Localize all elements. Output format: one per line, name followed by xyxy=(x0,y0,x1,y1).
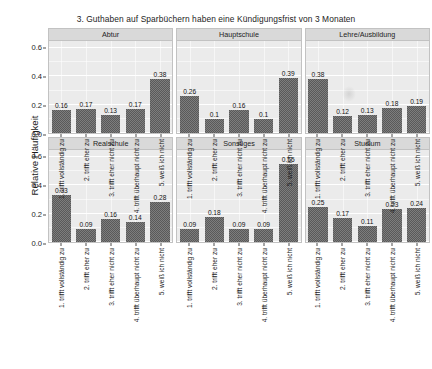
bar-slot: 0.38 xyxy=(150,41,169,133)
bar[interactable] xyxy=(76,229,95,242)
bar-slot: 0.16 xyxy=(229,41,248,133)
x-tick-slot: 2. trifft eher zu xyxy=(333,243,352,323)
bar[interactable] xyxy=(180,229,199,242)
bar[interactable] xyxy=(229,229,248,242)
bar[interactable] xyxy=(333,116,352,133)
x-tick-label: 2. trifft eher zu xyxy=(82,248,89,290)
bar[interactable] xyxy=(76,109,95,133)
x-tick-label: 4. trifft überhaupt nicht zu xyxy=(389,248,396,322)
x-tick-label: 1. trifft vollständig zu xyxy=(185,139,192,199)
bar[interactable] xyxy=(279,78,298,133)
x-tick-label: 5. weiß ich nicht xyxy=(414,139,421,186)
x-tick-mark xyxy=(342,134,343,137)
x-tick-slot: 1. trifft vollständig zu xyxy=(179,134,198,214)
bar[interactable] xyxy=(126,109,145,133)
bar-value-label: 0.09 xyxy=(80,221,93,228)
bar-slot: 0.1 xyxy=(254,41,273,133)
bar[interactable] xyxy=(358,115,377,133)
bar-series: 0.260.10.160.10.39 xyxy=(177,41,300,133)
y-tick-label: 0.2 xyxy=(31,210,42,219)
x-tick-slot: 4. trifft überhaupt nicht zu xyxy=(254,243,273,323)
x-tick-slot: 4. trifft überhaupt nicht zu xyxy=(126,243,145,323)
bar[interactable] xyxy=(308,79,327,133)
bar[interactable] xyxy=(180,96,199,133)
bar[interactable] xyxy=(333,218,352,242)
bar-series: 0.380.120.130.180.19 xyxy=(306,41,429,133)
x-axis-label-group: 1. trifft vollständig zu2. trifft eher z… xyxy=(305,134,430,214)
x-tick-slot: 3. trifft eher nicht zu xyxy=(358,243,377,323)
bar-slot: 0.19 xyxy=(407,41,426,133)
bar[interactable] xyxy=(150,79,169,133)
x-tick-label: 5. weiß ich nicht xyxy=(286,139,293,186)
facet-panel: Lehre/Ausbildung0.380.120.130.180.19 xyxy=(305,28,430,134)
bar[interactable] xyxy=(52,110,71,133)
bar[interactable] xyxy=(126,222,145,242)
bar-slot: 0.1 xyxy=(205,41,224,133)
panel-strip-label: Abtur xyxy=(48,28,173,40)
panel-plot-area: 0.380.120.130.180.19 xyxy=(305,40,430,134)
x-axis-label-group: 1. trifft vollständig zu2. trifft eher z… xyxy=(176,134,301,214)
bar[interactable] xyxy=(205,217,224,242)
x-tick-slot: 3. trifft eher nicht zu xyxy=(229,134,248,214)
bar-slot: 0.17 xyxy=(76,41,95,133)
bar-value-label: 0.13 xyxy=(104,107,117,114)
bar[interactable] xyxy=(229,110,248,133)
x-tick-mark xyxy=(60,134,61,137)
x-tick-slot: 4. trifft überhaupt nicht zu xyxy=(383,134,402,214)
x-tick-mark xyxy=(188,243,189,246)
x-tick-label: 1. trifft vollständig zu xyxy=(314,139,321,199)
panel-strip-label: Hauptschule xyxy=(176,28,301,40)
x-tick-slot: 5. weiß ich nicht xyxy=(151,134,170,214)
bar[interactable] xyxy=(254,229,273,242)
bar-value-label: 0.39 xyxy=(282,70,295,77)
x-tick-label: 3. trifft eher nicht zu xyxy=(235,139,242,197)
bar-series: 0.160.170.130.170.38 xyxy=(49,41,172,133)
x-tick-label: 3. trifft eher nicht zu xyxy=(107,248,114,306)
x-tick-mark xyxy=(264,134,265,137)
bar[interactable] xyxy=(382,108,401,133)
bar-slot: 0.17 xyxy=(126,41,145,133)
bar-slot: 0.26 xyxy=(180,41,199,133)
panel-plot-area: 0.160.170.130.170.38 xyxy=(48,40,173,134)
bar-slot: 0.12 xyxy=(333,41,352,133)
facet-panel: Hauptschule0.260.10.160.10.39 xyxy=(176,28,301,134)
bar-value-label: 0.19 xyxy=(410,98,423,105)
x-tick-slot: 5. weiß ich nicht xyxy=(279,134,298,214)
panel-strip-label: Lehre/Ausbildung xyxy=(305,28,430,40)
chart-container: 3. Guthaben auf Sparbüchern haben eine K… xyxy=(0,0,432,369)
x-tick-label: 2. trifft eher zu xyxy=(339,139,346,181)
x-tick-label: 5. weiß ich nicht xyxy=(286,248,293,295)
bar[interactable] xyxy=(205,119,224,133)
bar[interactable] xyxy=(358,226,377,242)
x-tick-mark xyxy=(317,243,318,246)
bar-value-label: 0.17 xyxy=(129,101,142,108)
bar[interactable] xyxy=(254,119,273,133)
bar[interactable] xyxy=(101,115,120,133)
x-tick-slot: 1. trifft vollständig zu xyxy=(307,134,326,214)
x-tick-slot: 1. trifft vollständig zu xyxy=(51,134,70,214)
x-axis-label-group: 1. trifft vollständig zu2. trifft eher z… xyxy=(48,243,173,323)
x-tick-label: 4. trifft überhaupt nicht zu xyxy=(261,139,268,213)
bar-value-label: 0.38 xyxy=(312,71,325,78)
x-tick-slot: 3. trifft eher nicht zu xyxy=(358,134,377,214)
x-tick-slot: 2. trifft eher zu xyxy=(333,134,352,214)
bar[interactable] xyxy=(407,106,426,133)
x-tick-mark xyxy=(289,134,290,137)
bar[interactable] xyxy=(101,219,120,242)
x-tick-slot: 1. trifft vollständig zu xyxy=(307,243,326,323)
x-tick-mark xyxy=(85,134,86,137)
y-tick-label: 0.4 xyxy=(31,181,42,190)
x-tick-mark xyxy=(135,134,136,137)
x-tick-label: 5. weiß ich nicht xyxy=(414,248,421,295)
bar-value-label: 0.17 xyxy=(80,101,93,108)
bar-slot: 0.18 xyxy=(382,41,401,133)
x-tick-mark xyxy=(264,243,265,246)
x-tick-mark xyxy=(317,134,318,137)
bar-slot: 0.39 xyxy=(279,41,298,133)
bar[interactable] xyxy=(382,209,401,242)
x-tick-mark xyxy=(110,134,111,137)
x-tick-mark xyxy=(135,243,136,246)
bar-value-label: 0.09 xyxy=(183,221,196,228)
x-tick-label: 5. weiß ich nicht xyxy=(157,139,164,186)
x-tick-mark xyxy=(213,134,214,137)
